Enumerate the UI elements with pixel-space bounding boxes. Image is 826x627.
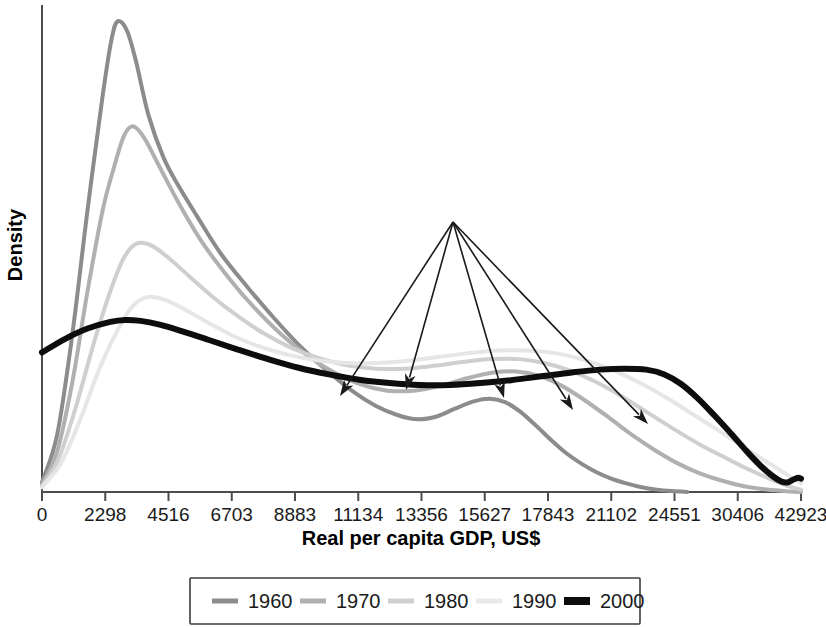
y-axis-title: Density <box>4 208 26 281</box>
x-tick-label: 21102 <box>586 504 637 525</box>
chart-canvas: 0229845166703888311134133561562717843211… <box>0 0 826 627</box>
x-axis-tick-labels: 0229845166703888311134133561562717843211… <box>37 504 826 525</box>
x-tick-label: 0 <box>37 504 48 525</box>
legend: 19601970198019902000 <box>190 578 645 624</box>
annotation-arrows-group <box>340 222 648 424</box>
x-tick-label: 11134 <box>333 504 383 525</box>
x-tick-label: 30406 <box>711 504 764 525</box>
x-tick-label: 13356 <box>395 504 448 525</box>
legend-label-1990: 1990 <box>512 590 557 612</box>
density-chart-figure: 0229845166703888311134133561562717843211… <box>0 0 826 627</box>
x-tick-label: 15627 <box>458 504 511 525</box>
x-tick-label: 4516 <box>147 504 189 525</box>
density-curve-2000 <box>42 320 801 483</box>
legend-label-1970: 1970 <box>336 590 381 612</box>
x-axis-title: Real per capita GDP, US$ <box>302 527 541 549</box>
x-tick-label: 6703 <box>211 504 253 525</box>
x-tick-label: 2298 <box>84 504 126 525</box>
axes-group <box>42 6 801 501</box>
x-tick-label: 8883 <box>274 504 316 525</box>
density-curves-group <box>42 21 801 492</box>
x-tick-label: 17843 <box>522 504 575 525</box>
legend-label-2000: 2000 <box>600 590 645 612</box>
legend-label-1960: 1960 <box>248 590 293 612</box>
x-tick-label: 42923 <box>775 504 826 525</box>
annotation-arrow-head <box>560 394 573 410</box>
x-tick-label: 24551 <box>648 504 701 525</box>
density-curve-1960 <box>42 21 687 492</box>
density-curve-1980 <box>42 243 801 490</box>
legend-label-1980: 1980 <box>424 590 469 612</box>
